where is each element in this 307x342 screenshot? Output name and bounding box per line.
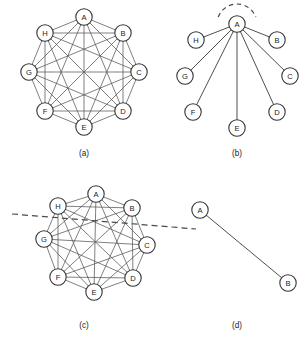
node-C[interactable]: C [131,64,147,80]
node-B[interactable]: B [124,200,140,216]
node-E[interactable]: E [86,284,102,300]
node-label-G: G [26,68,32,77]
edge-D-F [66,277,125,278]
node-A[interactable]: A [76,9,92,25]
node-B[interactable]: B [115,25,131,41]
panel-caption-d: (d) [232,321,242,330]
edge-B-G [52,211,125,237]
node-label-H: H [55,202,60,211]
panel-caption-a: (a) [79,149,89,158]
node-C[interactable]: C [282,68,298,84]
node-label-B: B [285,279,290,288]
panel-caption-b: (b) [232,149,242,158]
node-A[interactable]: A [192,202,208,218]
node-D[interactable]: D [125,270,141,286]
cut-group [12,214,196,229]
graph-cut-figure: ABCDEFGH(a)AHBGCFDE(b)AHBGCFDE(c)AB(d) [0,0,307,342]
node-F[interactable]: F [50,269,66,285]
edge-A-H [66,196,88,203]
node-H[interactable]: H [188,32,204,48]
panel-b: AHBGCFDE(b) [177,4,298,157]
node-label-C: C [144,241,150,250]
node-G[interactable]: G [21,64,37,80]
node-E[interactable]: E [76,119,92,135]
node-B[interactable]: B [269,32,285,48]
node-label-D: D [274,108,280,117]
panel-caption-c: (c) [79,321,89,330]
node-label-C: C [136,68,142,77]
edge-F-G [47,247,55,270]
node-label-E: E [81,123,86,132]
cut-line [12,214,196,229]
node-label-B: B [129,204,134,213]
edge-C-D [136,253,144,271]
node-F[interactable]: F [185,104,201,120]
node-label-H: H [193,36,198,45]
edge-A-B [104,197,125,205]
node-C[interactable]: C [139,237,155,253]
node-H[interactable]: H [50,198,66,214]
node-F[interactable]: F [37,103,53,119]
edge-A-B [206,215,281,278]
node-label-F: F [56,273,61,282]
cut-arc [218,4,256,17]
node-label-E: E [234,124,239,133]
node-G[interactable]: G [177,68,193,84]
node-label-B: B [120,29,125,38]
panel-a: ABCDEFGH(a) [21,9,147,158]
node-label-H: H [42,29,47,38]
edge-G-H [47,214,55,232]
nodes-group: AHBGCFDE [177,16,298,136]
node-G[interactable]: G [36,231,52,247]
node-label-B: B [274,36,279,45]
panel-c: AHBGCFDE(c) [12,186,196,330]
node-label-D: D [120,107,126,116]
node-label-C: C [287,72,293,81]
node-A[interactable]: A [88,186,104,202]
edge-E-F [66,280,87,289]
node-D[interactable]: D [269,104,285,120]
edge-B-H [66,206,124,208]
node-D[interactable]: D [115,103,131,119]
node-label-G: G [41,235,47,244]
node-E[interactable]: E [229,120,245,136]
panel-d: AB(d) [192,202,296,330]
node-label-G: G [182,72,188,81]
node-label-F: F [43,107,48,116]
edges-group [206,215,281,278]
node-label-F: F [191,108,196,117]
node-label-D: D [130,274,136,283]
node-B[interactable]: B [280,275,296,291]
node-label-E: E [91,288,96,297]
node-H[interactable]: H [37,25,53,41]
cut-group [218,4,256,17]
node-A[interactable]: A [229,16,245,32]
